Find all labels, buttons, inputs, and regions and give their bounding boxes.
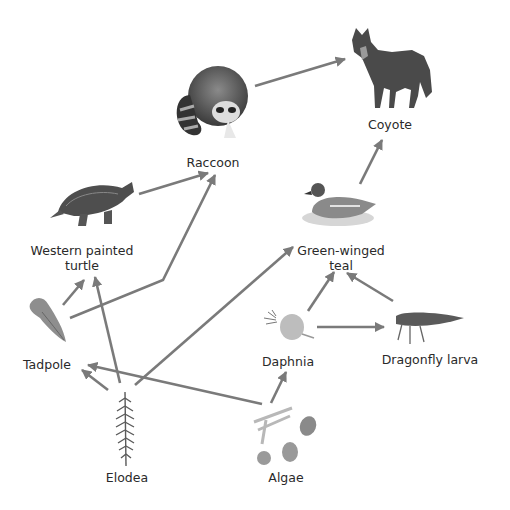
arrow-daphnia-to-teal (308, 272, 334, 311)
label-raccoon: Raccoon (178, 155, 248, 170)
label-daphnia: Daphnia (258, 354, 318, 369)
arrow-raccoon-to-coyote (255, 59, 345, 86)
dragonfly-larva-illustration (396, 312, 464, 344)
algae-illustration (254, 408, 319, 465)
label-teal-line2: teal (286, 258, 396, 273)
daphnia-illustration (264, 310, 314, 340)
elodea-illustration (116, 392, 134, 466)
teal-illustration (302, 183, 376, 226)
arrow-teal-to-coyote (360, 140, 382, 184)
arrow-turtle-to-raccoon (139, 173, 208, 194)
tadpole-illustration (30, 298, 66, 342)
turtle-illustration (50, 182, 134, 226)
arrow-elodea-to-tadpole (82, 370, 108, 390)
arrow-tadpole-to-turtle (63, 280, 84, 305)
arrow-algae-to-tadpole (88, 365, 262, 404)
label-elodea: Elodea (97, 470, 157, 485)
raccoon-illustration (177, 66, 248, 138)
label-dragonfly-larva: Dragonfly larva (380, 352, 480, 367)
label-teal-line1: Green-winged (286, 243, 396, 258)
label-tadpole: Tadpole (17, 357, 77, 372)
arrow-dragonfly-to-teal (347, 273, 393, 301)
label-coyote: Coyote (360, 117, 420, 132)
arrow-algae-to-daphnia (271, 372, 286, 403)
label-turtle-line2: turtle (27, 258, 137, 273)
food-web-diagram: Coyote Raccoon Western painted turtle Gr… (0, 0, 510, 510)
label-turtle-line1: Western painted (27, 243, 137, 258)
coyote-illustration (352, 28, 432, 108)
label-algae: Algae (256, 470, 316, 485)
